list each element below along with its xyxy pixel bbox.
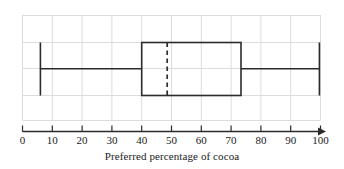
x-axis-ticks [23, 126, 321, 132]
x-axis-label: Preferred percentage of cocoa [0, 150, 344, 162]
x-tick-label-60: 60 [196, 134, 207, 146]
vertical-gridlines [23, 15, 321, 120]
x-tick-label-40: 40 [136, 134, 147, 146]
x-tick-label-10: 10 [47, 134, 58, 146]
x-tick-label-90: 90 [285, 134, 296, 146]
whisker-max [241, 43, 319, 96]
whisker-min [40, 43, 141, 96]
x-tick-label-70: 70 [226, 134, 237, 146]
x-tick-label-50: 50 [166, 134, 177, 146]
x-tick-label-100: 100 [312, 134, 329, 146]
x-tick-label-20: 20 [77, 134, 88, 146]
x-tick-label-30: 30 [106, 134, 117, 146]
x-tick-label-0: 0 [20, 134, 26, 146]
x-tick-label-80: 80 [255, 134, 266, 146]
boxplot-figure: 0 10 20 30 40 50 60 70 80 90 100 Preferr… [0, 0, 344, 169]
